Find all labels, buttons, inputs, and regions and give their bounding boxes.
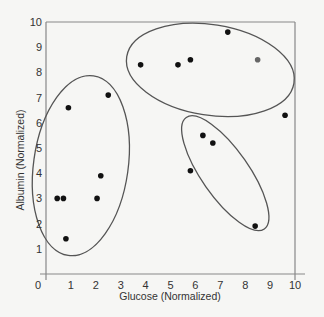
y-axis-title: Albumin (Normalized) bbox=[14, 110, 26, 211]
data-point bbox=[94, 196, 100, 202]
x-tick-label: 0 bbox=[35, 279, 41, 291]
y-tick-label: 1 bbox=[36, 243, 42, 255]
data-point bbox=[252, 223, 258, 229]
data-point bbox=[105, 92, 111, 98]
data-point bbox=[255, 57, 261, 63]
data-point bbox=[61, 196, 67, 202]
data-point bbox=[66, 105, 72, 111]
data-point bbox=[210, 140, 216, 146]
data-point bbox=[188, 168, 194, 174]
x-tick-label: 8 bbox=[242, 279, 248, 291]
scatter-chart: 012345678910 12345678910 Glucose (Normal… bbox=[0, 0, 324, 317]
x-tick-label: 1 bbox=[68, 279, 74, 291]
x-tick-label: 10 bbox=[289, 279, 301, 291]
data-points bbox=[54, 29, 287, 241]
cluster-3-ellipse bbox=[167, 104, 284, 243]
x-tick-label: 9 bbox=[267, 279, 273, 291]
data-point bbox=[98, 173, 104, 179]
y-axis-ticks: 12345678910 bbox=[30, 16, 42, 255]
x-tick-label: 2 bbox=[93, 279, 99, 291]
y-tick-label: 7 bbox=[36, 92, 42, 104]
y-tick-label: 4 bbox=[36, 167, 42, 179]
data-point bbox=[54, 196, 60, 202]
x-axis-title: Glucose (Normalized) bbox=[119, 290, 221, 302]
data-point bbox=[225, 29, 231, 35]
y-tick-label: 2 bbox=[36, 218, 42, 230]
data-point bbox=[175, 62, 181, 68]
data-point bbox=[282, 112, 288, 118]
data-point bbox=[63, 236, 69, 242]
y-tick-label: 9 bbox=[36, 41, 42, 53]
y-tick-label: 5 bbox=[36, 142, 42, 154]
data-point bbox=[138, 62, 144, 68]
cluster-ellipses bbox=[21, 12, 301, 262]
y-tick-label: 10 bbox=[30, 16, 42, 28]
data-point bbox=[200, 133, 206, 139]
y-tick-label: 8 bbox=[36, 66, 42, 78]
plot-frame bbox=[40, 22, 305, 280]
data-point bbox=[188, 57, 194, 63]
y-tick-label: 6 bbox=[36, 117, 42, 129]
cluster-2-ellipse bbox=[120, 12, 301, 128]
y-tick-label: 3 bbox=[36, 192, 42, 204]
